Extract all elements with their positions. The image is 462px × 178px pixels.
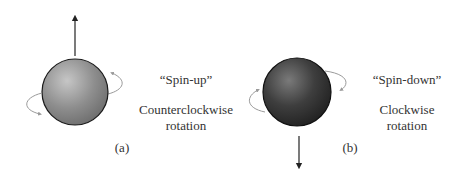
- rotation-label-b: rotation: [387, 118, 428, 133]
- panel-label-a: (a): [115, 140, 129, 155]
- rotation-label-a: rotation: [166, 118, 207, 133]
- electron-sphere-spin-up: [42, 59, 108, 125]
- panel-label-b: (b): [342, 140, 357, 155]
- counterclockwise-label: Counterclockwise: [139, 102, 233, 117]
- panel-a: “Spin-up” Counterclockwise rotation (a): [27, 18, 233, 155]
- spin-diagram: “Spin-up” Counterclockwise rotation (a) …: [0, 0, 462, 178]
- counterclockwise-rotation-arrow-front-icon: [27, 93, 42, 114]
- spin-up-label: “Spin-up”: [160, 72, 213, 87]
- electron-sphere-spin-down: [263, 58, 331, 126]
- counterclockwise-rotation-arrow-icon: [108, 73, 122, 94]
- clockwise-label: Clockwise: [380, 102, 435, 117]
- panel-b: “Spin-down” Clockwise rotation (b): [249, 58, 441, 166]
- spin-down-label: “Spin-down”: [373, 72, 442, 87]
